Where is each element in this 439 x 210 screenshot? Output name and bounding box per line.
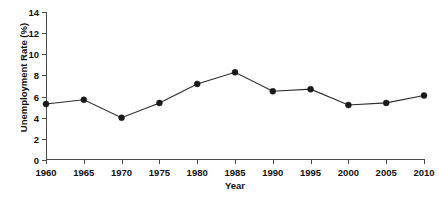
y-tick-label: 10 <box>28 49 39 60</box>
x-tick-label: 1965 <box>73 167 94 178</box>
data-point <box>270 88 276 94</box>
y-axis-title: Unemployment Rate (%) <box>18 8 29 148</box>
series-markers <box>43 69 427 120</box>
y-tick-label: 2 <box>34 133 39 144</box>
y-tick-label: 8 <box>34 70 39 81</box>
y-tick-label: 14 <box>28 7 39 18</box>
data-point <box>119 115 125 121</box>
x-tick-label: 2005 <box>376 167 397 178</box>
data-point <box>383 100 389 106</box>
data-point <box>194 81 200 87</box>
x-axis-title: Year <box>46 180 424 191</box>
chart-figure: Unemployment Rate (%) 02468101214 196019… <box>0 0 439 210</box>
x-tick-label: 1995 <box>300 167 321 178</box>
data-point <box>345 102 351 108</box>
x-tick-label: 1980 <box>187 167 208 178</box>
x-tick-label: 1960 <box>35 167 56 178</box>
series-line <box>46 72 424 117</box>
data-point <box>421 93 427 99</box>
data-point <box>156 100 162 106</box>
x-tick-label: 1990 <box>262 167 283 178</box>
plot-area: 02468101214 1960196519701975198019851990… <box>46 12 424 160</box>
data-point <box>81 97 87 103</box>
data-point <box>232 69 238 75</box>
y-tick-label: 4 <box>34 112 39 123</box>
y-tick-label: 0 <box>34 155 39 166</box>
x-tick-label: 2000 <box>338 167 359 178</box>
x-tick-label: 2010 <box>413 167 434 178</box>
series-unemployment-rate <box>46 12 424 160</box>
data-point <box>308 86 314 92</box>
x-tick-label: 1970 <box>111 167 132 178</box>
y-tick-label: 12 <box>28 28 39 39</box>
x-tick-label: 1985 <box>224 167 245 178</box>
data-point <box>43 101 49 107</box>
x-tick <box>424 159 425 164</box>
y-tick-label: 6 <box>34 91 39 102</box>
x-tick-label: 1975 <box>149 167 170 178</box>
